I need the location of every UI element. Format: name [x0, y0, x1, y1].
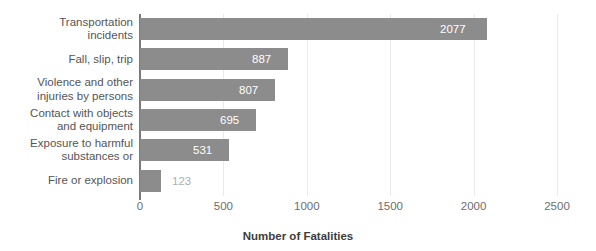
- category-label-fall-slip-trip: Fall, slip, trip: [0, 44, 133, 74]
- bar-chart: 2077 887 807 695 531 123 Transportation …: [0, 0, 596, 251]
- xtick-label-1500: 1500: [377, 200, 403, 212]
- bars-layer: 2077 887 807 695 531 123: [140, 14, 557, 196]
- x-axis-title: Number of Fatalities: [0, 230, 596, 242]
- xtick-label-2500: 2500: [544, 200, 570, 212]
- bar-exposure-to-harmful-substances: [140, 139, 229, 161]
- bar-row-fall-slip-trip: 887: [140, 44, 557, 74]
- bar-value-exposure-to-harmful-substances: 531: [193, 139, 212, 161]
- bar-value-transportation-incidents: 2077: [440, 18, 466, 40]
- bar-transportation-incidents: [140, 18, 487, 40]
- bar-row-exposure-to-harmful-substances: 531: [140, 135, 557, 165]
- bar-row-violence-and-other-injuries-by-persons: 807: [140, 75, 557, 105]
- category-label-transportation-incidents: Transportation incidents: [0, 14, 133, 44]
- bar-row-transportation-incidents: 2077: [140, 14, 557, 44]
- category-label-text: Exposure to harmful substances or: [30, 137, 133, 164]
- bar-value-fire-or-explosion: 123: [172, 170, 191, 192]
- bar-row-contact-with-objects-and-equipment: 695: [140, 105, 557, 135]
- category-label-contact-with-objects-and-equipment: Contact with objects and equipment: [0, 105, 133, 135]
- category-label-text: Fire or explosion: [48, 174, 133, 188]
- xtick-label-0: 0: [137, 200, 143, 212]
- category-label-text: Violence and other injuries by persons: [37, 76, 133, 103]
- category-axis-labels: Transportation incidents Fall, slip, tri…: [0, 14, 133, 196]
- category-label-text: Contact with objects and equipment: [30, 107, 133, 134]
- bar-value-violence-and-other-injuries-by-persons: 807: [239, 79, 258, 101]
- bar-value-contact-with-objects-and-equipment: 695: [220, 109, 239, 131]
- category-label-fire-or-explosion: Fire or explosion: [0, 166, 133, 196]
- bar-row-fire-or-explosion: 123: [140, 166, 557, 196]
- category-label-exposure-to-harmful-substances: Exposure to harmful substances or: [0, 135, 133, 165]
- xtick-label-1000: 1000: [294, 200, 320, 212]
- xtick-label-2000: 2000: [461, 200, 487, 212]
- bar-fire-or-explosion: [140, 170, 161, 192]
- category-label-text: Transportation incidents: [59, 16, 133, 43]
- category-label-text: Fall, slip, trip: [68, 53, 133, 67]
- category-label-violence-and-other-injuries-by-persons: Violence and other injuries by persons: [0, 75, 133, 105]
- gridline-2500: [557, 14, 558, 196]
- bar-value-fall-slip-trip: 887: [252, 48, 271, 70]
- xtick-label-500: 500: [214, 200, 233, 212]
